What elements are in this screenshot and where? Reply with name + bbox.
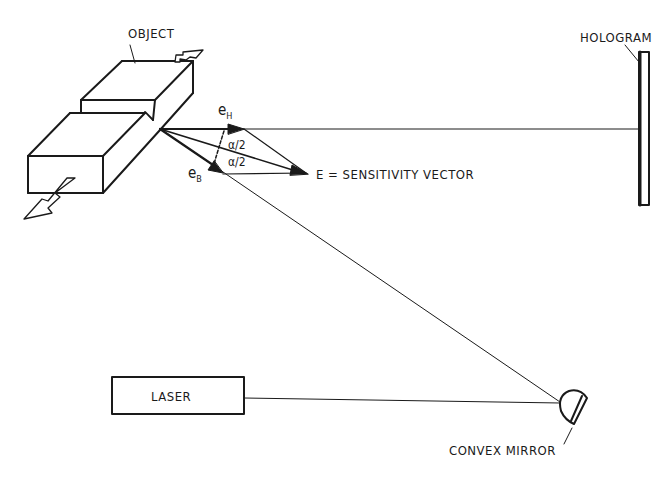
hologram-plate bbox=[639, 52, 649, 205]
mirror-leader-line bbox=[564, 428, 572, 444]
convex-mirror-label: CONVEX MIRROR bbox=[449, 443, 556, 458]
laser-label: LASER bbox=[151, 389, 191, 404]
sensitivity-vector-label: E = SENSITIVITY VECTOR bbox=[316, 167, 474, 182]
construction-line bbox=[244, 129, 306, 173]
vector-eh-label: eH bbox=[218, 101, 232, 121]
hologram-leader-line bbox=[625, 45, 639, 62]
half-angle-top-label: α/2 bbox=[228, 138, 246, 152]
laser-beam bbox=[244, 398, 560, 403]
vector-eb bbox=[160, 129, 216, 167]
hologram-label: HOLOGRAM bbox=[580, 30, 652, 45]
object-lower-block bbox=[28, 93, 193, 193]
vector-eb-label: eB bbox=[188, 164, 202, 184]
half-angle-bottom-label: α/2 bbox=[228, 155, 246, 169]
holography-diagram: OBJECT HOLOGRAM LASER CONVEX MIRROR E = … bbox=[0, 0, 665, 487]
vector-eh-arrowhead bbox=[228, 124, 244, 134]
object-label: OBJECT bbox=[128, 26, 175, 41]
convex-mirror-icon bbox=[560, 390, 587, 425]
